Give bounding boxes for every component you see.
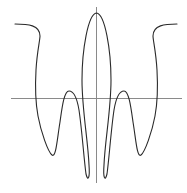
curve-plot (0, 0, 187, 193)
